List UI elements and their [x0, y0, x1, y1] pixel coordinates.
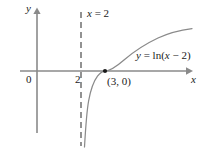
x-axis-label: x — [191, 74, 196, 85]
x-tick-label-2: 2 — [75, 74, 81, 85]
point-marker-3-0 — [103, 69, 107, 73]
curve-equation-label: y = ln(x − 2) — [136, 50, 191, 61]
y-axis-label: y — [26, 3, 31, 14]
asymptote-label: x = 2 — [87, 8, 109, 19]
point-label-3-0: (3, 0) — [107, 76, 131, 87]
log-curve — [85, 29, 193, 147]
curve-label-tail: − 2) — [170, 49, 191, 61]
math-figure-graph: y x 0 2 x = 2 (3, 0) y = ln(x − 2) — [0, 0, 211, 151]
x-tick-label-0: 0 — [26, 74, 32, 85]
asymptote-label-equation: = 2 — [92, 7, 109, 19]
y-axis-arrowhead — [33, 8, 40, 15]
curve-label-ln: = ln( — [141, 49, 165, 61]
